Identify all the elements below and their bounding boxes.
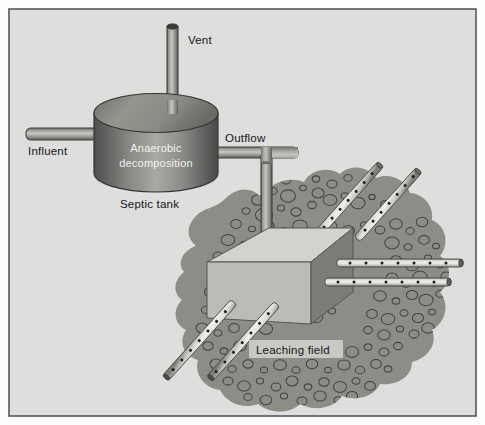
septic-system-figure: Vent Influent Anaerobic decomposition Ou…: [0, 0, 485, 425]
label-anaerobic-line1: Anaerobic: [130, 142, 182, 154]
leach-pipe-e-2: [325, 278, 451, 286]
septic-tank-lid: [94, 94, 218, 133]
label-vent: Vent: [188, 34, 212, 46]
septic-system-diagram: Vent Influent Anaerobic decomposition Ou…: [0, 0, 485, 425]
label-influent: Influent: [28, 145, 68, 157]
label-septic-tank: Septic tank: [120, 198, 179, 210]
label-leaching-field: Leaching field: [256, 344, 330, 356]
vent-opening-icon: [167, 24, 178, 29]
label-anaerobic-line2: decomposition: [119, 157, 193, 169]
leach-pipe-e-1: [337, 259, 463, 267]
label-outflow: Outflow: [225, 132, 266, 144]
